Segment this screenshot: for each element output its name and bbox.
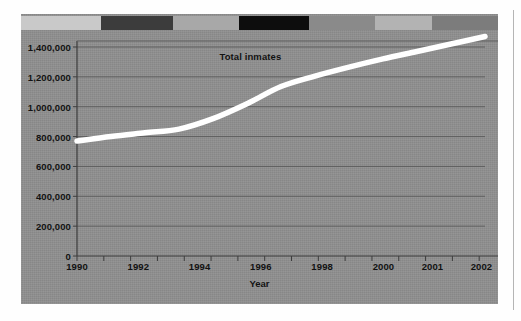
x-tick-label: 1994 [189,261,211,272]
y-tick-label: 0 [66,251,71,262]
series-annotation-label: Total inmates [219,51,281,62]
x-tick-label: 1996 [250,261,272,272]
y-tick-label: 1,000,000 [28,101,71,112]
chart-panel: 1,400,0001,200,0001,000,000800,000600,00… [21,14,498,304]
page-background: 1,400,0001,200,0001,000,000800,000600,00… [0,0,521,321]
y-tick-label: 200,000 [36,221,71,232]
page-column-rule [513,10,514,310]
plot-area: 1,400,0001,200,0001,000,000800,000600,00… [21,14,498,304]
y-tick-label: 600,000 [36,161,71,172]
y-tick-label: 1,400,000 [28,42,71,53]
y-tick-label: 400,000 [36,191,71,202]
y-tick-label: 1,200,000 [28,71,71,82]
axis-lines [77,41,498,256]
x-axis-title: Year [21,278,498,289]
x-tick-label: 1992 [128,261,150,272]
x-tick-label: 1998 [311,261,333,272]
x-tick-label: 2000 [373,261,395,272]
y-tick-label: 800,000 [36,131,71,142]
x-tick-label: 2001 [422,261,444,272]
x-tick-label: 2002 [471,261,493,272]
x-tick-label: 1990 [66,261,88,272]
gridlines [77,47,485,226]
